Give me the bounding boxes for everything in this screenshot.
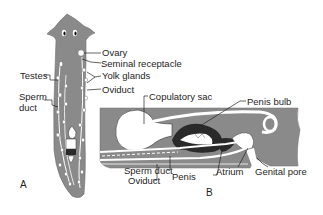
label-oviduct-b: Oviduct xyxy=(128,176,160,186)
label-sperm-duct-a-line1: Sperm xyxy=(19,92,47,102)
label-penis: Penis xyxy=(172,172,196,182)
label-yolk-glands: Yolk glands xyxy=(102,71,150,81)
label-ovary: Ovary xyxy=(102,48,127,58)
label-oviduct-a: Oviduct xyxy=(102,85,134,95)
label-testes: Testes xyxy=(20,71,47,81)
label-sperm-duct-a-line2: duct xyxy=(19,103,37,113)
panel-label-a: A xyxy=(20,180,27,190)
sagittal-section-illustration xyxy=(100,108,300,168)
label-genital-pore: Genital pore xyxy=(255,167,307,177)
planarian-reproductive-diagram: Ovary Seminal receptacle Yolk glands Ovi… xyxy=(0,0,323,215)
label-seminal-receptacle: Seminal receptacle xyxy=(101,59,182,69)
panel-label-b: B xyxy=(206,188,213,198)
label-penis-bulb: Penis bulb xyxy=(247,97,291,107)
label-atrium: Atrium xyxy=(216,167,243,177)
label-copulatory-sac: Copulatory sac xyxy=(149,92,212,102)
diagram-artwork xyxy=(0,0,323,215)
